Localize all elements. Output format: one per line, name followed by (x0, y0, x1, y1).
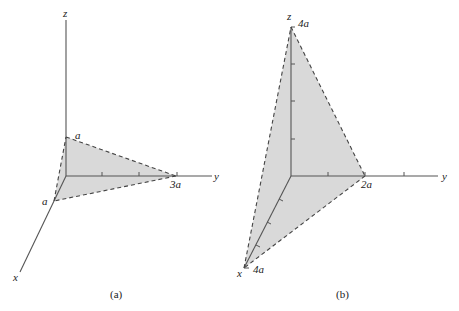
plane-a-face (54, 137, 176, 201)
y-axis-label-a: y (213, 170, 219, 182)
y-intercept-label-b: 2a (361, 178, 373, 190)
x-intercept-label-b: 4a (253, 263, 265, 275)
z-intercept-label-b: 4a (298, 17, 310, 29)
x-axis-label-b: x (236, 267, 242, 279)
figure-a: z y x a 3a a (a) (12, 7, 219, 301)
diagram-canvas: z y x a 3a a (a) z 4a y 2a (0, 0, 459, 311)
x-axis-a (20, 176, 66, 272)
z-axis-label-a: z (62, 7, 68, 19)
caption-b: (b) (336, 288, 349, 301)
z-axis-label-b: z (286, 10, 292, 22)
figure-b: z 4a y 2a x 4a (b) (236, 10, 447, 301)
y-intercept-label-a: 3a (169, 178, 182, 190)
caption-a: (a) (110, 288, 123, 301)
x-intercept-label-a: a (42, 195, 48, 207)
x-axis-label-a: x (12, 271, 18, 283)
y-axis-label-b: y (441, 170, 447, 182)
z-intercept-label-a: a (75, 129, 81, 141)
